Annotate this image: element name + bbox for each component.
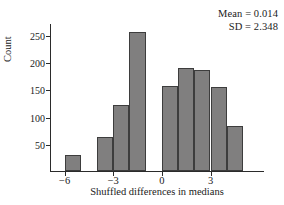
histogram-bar <box>129 32 145 171</box>
y-tick-mark <box>46 63 50 64</box>
histogram-figure: Mean = 0.014 SD = 2.348 Count 5010015020… <box>0 0 284 205</box>
y-tick-mark <box>46 90 50 91</box>
y-tick-label: 150 <box>30 85 45 96</box>
histogram-bar <box>113 105 129 171</box>
x-axis-line <box>50 171 264 172</box>
histogram-bar <box>227 126 243 171</box>
y-tick-label: 100 <box>30 112 45 123</box>
x-tick-label: 3 <box>208 175 213 186</box>
histogram-bar <box>65 155 81 171</box>
y-axis-label: Count <box>2 36 13 62</box>
histogram-bar <box>194 70 210 171</box>
x-tick-label: −3 <box>108 175 119 186</box>
y-tick-mark <box>46 36 50 37</box>
x-tick-label: −6 <box>59 175 70 186</box>
y-axis-line <box>50 24 51 172</box>
x-axis-label: Shuffled differences in medians <box>50 186 264 197</box>
y-tick-mark <box>46 118 50 119</box>
y-tick-mark <box>46 145 50 146</box>
y-tick-label: 200 <box>30 58 45 69</box>
y-tick-label: 50 <box>35 139 45 150</box>
histogram-bar <box>178 68 194 171</box>
plot-area: 50100150200250 −6−303 <box>50 24 264 172</box>
histogram-bar <box>97 137 113 171</box>
y-tick-label: 250 <box>30 30 45 41</box>
histogram-bar <box>162 86 178 171</box>
x-tick-label: 0 <box>159 175 164 186</box>
mean-annotation: Mean = 0.014 <box>218 8 278 21</box>
histogram-bar <box>211 87 227 171</box>
